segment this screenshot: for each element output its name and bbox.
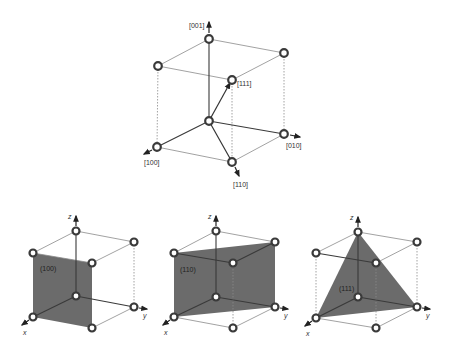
- cube-edge: [232, 53, 284, 80]
- atom: [414, 239, 421, 246]
- arrow-y: [422, 308, 430, 309]
- label-plane-111: (111): [339, 285, 354, 293]
- label-z: z: [349, 214, 354, 221]
- arrow-x: [22, 320, 29, 325]
- label-001: [001]: [189, 22, 205, 30]
- cube-plane-100: (100) z x y: [22, 213, 147, 336]
- axis-x: [157, 121, 209, 147]
- atom: [228, 76, 236, 84]
- atom: [213, 228, 220, 235]
- arrow-110: [235, 167, 239, 176]
- cube-edge: [157, 147, 232, 162]
- arrow-y: [139, 308, 147, 309]
- cube-edge: [158, 39, 209, 66]
- label-x: x: [305, 330, 310, 337]
- label-x: x: [163, 329, 168, 336]
- cube-edge: [92, 242, 134, 263]
- plane-110: [174, 242, 275, 317]
- atom: [272, 239, 279, 246]
- label-y: y: [425, 312, 430, 320]
- arrow-x: [305, 321, 312, 326]
- atom: [131, 239, 138, 246]
- atom: [30, 250, 37, 257]
- cube-edge: [92, 307, 134, 328]
- plane-111: [316, 232, 417, 318]
- cube-edge: [216, 231, 275, 242]
- top-cube-directions: [001] [111] [100] [010] [110]: [144, 22, 302, 189]
- label-111: [111]: [237, 80, 252, 88]
- atom: [205, 117, 213, 125]
- atom: [154, 62, 162, 70]
- cube-edge: [358, 232, 417, 242]
- atom: [355, 294, 362, 301]
- atom: [73, 228, 80, 235]
- atom: [171, 314, 178, 321]
- cube-edge: [376, 242, 417, 263]
- atom: [280, 130, 288, 138]
- atom: [89, 325, 96, 332]
- label-z: z: [207, 213, 212, 220]
- atom: [153, 143, 161, 151]
- cube-edge: [209, 39, 284, 53]
- label-z: z: [67, 213, 72, 220]
- arrow-y: [280, 308, 288, 309]
- cube-edge: [76, 231, 134, 242]
- vector-111: [209, 83, 230, 121]
- atom: [89, 260, 96, 267]
- atom: [228, 158, 236, 166]
- crystal-diagram: [001] [111] [100] [010] [110] (100) z x …: [0, 0, 453, 347]
- atom: [373, 260, 380, 267]
- cube-edge: [316, 318, 376, 328]
- cube-edge: [33, 231, 76, 253]
- label-x: x: [22, 329, 27, 336]
- label-y: y: [283, 312, 288, 320]
- label-100: [100]: [144, 159, 160, 167]
- axis-y: [209, 121, 284, 134]
- atom: [73, 293, 80, 300]
- atom: [272, 304, 279, 311]
- label-y: y: [142, 312, 147, 320]
- arrow-x: [163, 320, 170, 325]
- atom: [313, 250, 320, 257]
- atom: [313, 315, 320, 322]
- cube-plane-111: (111) z x y: [305, 214, 430, 337]
- atom: [355, 229, 362, 236]
- atom: [213, 294, 220, 301]
- atom: [373, 325, 380, 332]
- atom: [230, 325, 237, 332]
- atom: [205, 35, 213, 43]
- cube-edge: [157, 66, 158, 147]
- label-110: [110]: [233, 181, 248, 189]
- arrow-100: [144, 150, 152, 154]
- atom: [131, 304, 138, 311]
- atom: [230, 260, 237, 267]
- label-plane-110: (110): [180, 266, 196, 274]
- label-010: [010]: [286, 142, 302, 150]
- atom: [171, 250, 178, 257]
- cube-edge: [232, 134, 284, 162]
- cube-edge: [158, 66, 232, 80]
- atom: [414, 304, 421, 311]
- vector-110: [209, 121, 232, 162]
- label-plane-100: (100): [40, 265, 56, 273]
- atom: [30, 314, 37, 321]
- cube-edge: [174, 317, 233, 328]
- cube-plane-110: (110) z x y: [163, 213, 288, 336]
- atom: [280, 49, 288, 57]
- arrow-010: [290, 135, 300, 137]
